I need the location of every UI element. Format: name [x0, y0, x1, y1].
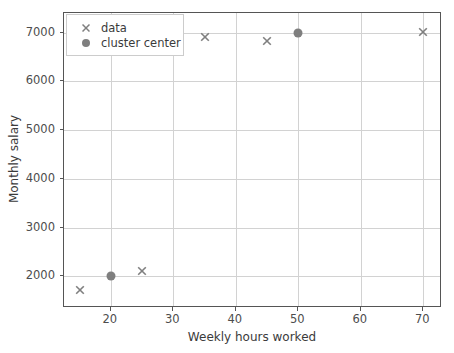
y-tick-label: 2000 [26, 268, 55, 282]
gridline-vertical [361, 13, 362, 306]
cluster-center-marker [106, 272, 115, 281]
y-tick-mark [60, 178, 64, 179]
y-tick-mark [60, 227, 64, 228]
gridline-horizontal [64, 81, 440, 82]
y-tick-label: 6000 [26, 73, 55, 87]
legend-item-label: data [99, 21, 127, 35]
x-tick-mark [422, 307, 423, 311]
legend: datacluster center [66, 14, 184, 56]
legend-x-marker-icon [73, 23, 99, 33]
x-tick-label: 60 [352, 312, 367, 326]
data-point-marker [418, 22, 429, 33]
legend-item-label: cluster center [99, 36, 181, 50]
legend-dot-marker-icon [73, 39, 99, 47]
x-tick-mark [235, 307, 236, 311]
y-tick-mark [60, 32, 64, 33]
gridline-vertical [173, 13, 174, 306]
y-axis-label: Monthly salary [7, 115, 21, 203]
x-tick-label: 30 [165, 312, 180, 326]
scatter-plot-figure: 203040506070 200030004000500060007000 We… [0, 0, 454, 353]
x-axis-label: Weekly hours worked [188, 330, 316, 344]
legend-item-data[interactable]: data [73, 20, 176, 35]
x-tick-mark [110, 307, 111, 311]
legend-item-cluster-center[interactable]: cluster center [73, 35, 176, 50]
y-tick-mark [60, 80, 64, 81]
x-tick-label: 20 [103, 312, 118, 326]
data-point-marker [137, 261, 148, 272]
x-tick-mark [360, 307, 361, 311]
data-point-marker [262, 32, 273, 43]
x-tick-mark [172, 307, 173, 311]
gridline-horizontal [64, 228, 440, 229]
x-tick-label: 40 [227, 312, 242, 326]
y-tick-label: 4000 [26, 171, 55, 185]
cluster-center-marker [294, 28, 303, 37]
gridline-horizontal [64, 179, 440, 180]
y-tick-mark [60, 275, 64, 276]
x-tick-label: 70 [415, 312, 430, 326]
y-tick-mark [60, 129, 64, 130]
x-tick-mark [297, 307, 298, 311]
gridline-vertical [236, 13, 237, 306]
plot-area [63, 12, 441, 307]
gridline-horizontal [64, 276, 440, 277]
gridline-vertical [423, 13, 424, 306]
gridline-vertical [298, 13, 299, 306]
y-tick-label: 3000 [26, 220, 55, 234]
y-tick-label: 5000 [26, 122, 55, 136]
y-tick-label: 7000 [26, 25, 55, 39]
data-point-marker [74, 281, 85, 292]
gridline-horizontal [64, 130, 440, 131]
x-tick-label: 50 [290, 312, 305, 326]
gridline-vertical [111, 13, 112, 306]
data-point-marker [199, 27, 210, 38]
